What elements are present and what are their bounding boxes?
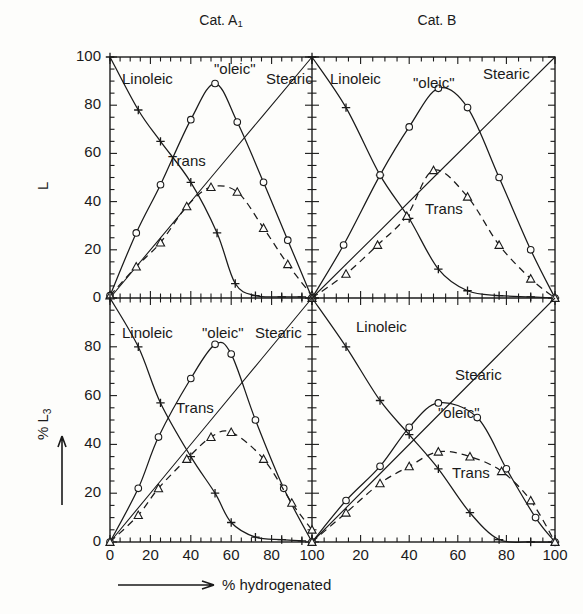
panel-title-cat-b: Cat. B [418, 12, 457, 28]
data-point-circle [377, 172, 384, 179]
x-tick-label-right-100: 100 [542, 546, 567, 563]
data-point-plus [342, 343, 350, 351]
data-point-circle [188, 116, 195, 123]
data-point-circle [234, 119, 241, 126]
data-point-circle [228, 351, 235, 358]
series-oleic [309, 400, 559, 546]
data-point-circle [188, 375, 195, 382]
data-point-circle [343, 497, 350, 504]
y-ticks [548, 298, 555, 542]
y-ticks [305, 298, 312, 542]
data-point-circle [133, 230, 140, 237]
data-point-triangle [405, 462, 413, 469]
curve-label-trans-br: Trans [452, 464, 490, 481]
data-point-triangle [227, 428, 235, 435]
chart-svg [0, 0, 583, 614]
data-point-circle [406, 424, 413, 431]
data-point-triangle [284, 260, 292, 267]
y-tick-label-bottom-0: 0 [93, 532, 101, 549]
y-axis-arrow [58, 436, 66, 505]
panel-top-left [106, 53, 316, 302]
data-point-circle [464, 104, 471, 111]
y-tick-label-top-100: 100 [76, 47, 101, 64]
y-tick-label-top-20: 20 [84, 240, 101, 257]
series-line [312, 88, 555, 298]
data-point-plus [134, 106, 142, 114]
series-line [110, 57, 312, 298]
x-tick-label-left-100: 100 [299, 546, 324, 563]
y-tick-label-bottom-60: 60 [84, 386, 101, 403]
series-line [110, 57, 302, 297]
x-tick-label-left-80: 80 [263, 546, 280, 563]
data-point-plus [342, 103, 350, 111]
data-point-triangle [527, 275, 535, 282]
y-ticks [110, 298, 117, 542]
data-point-triangle [376, 479, 384, 486]
data-point-plus [187, 178, 195, 186]
series-line [312, 170, 555, 298]
curve-label-stearic-br: Stearic [455, 366, 502, 383]
y-tick-label-top-0: 0 [93, 288, 101, 305]
x-ticks [312, 535, 555, 542]
data-point-circle [532, 514, 539, 521]
panel-bottom-right [308, 294, 559, 546]
data-point-triangle [207, 183, 215, 190]
x-tick-label-right-60: 60 [449, 546, 466, 563]
x-axis-label: % hydrogenated [222, 576, 331, 593]
series-trans [308, 166, 559, 301]
data-point-triangle [342, 270, 350, 277]
x-ticks [110, 57, 312, 64]
y-tick-label-top-60: 60 [84, 143, 101, 160]
data-point-circle [135, 485, 142, 492]
curve-label-linoleic-br: Linoleic [356, 318, 407, 335]
data-point-triangle [134, 511, 142, 518]
data-point-circle [377, 463, 384, 470]
series-stearic [110, 57, 312, 298]
data-point-plus [527, 538, 535, 546]
y-tick-label-top-40: 40 [84, 192, 101, 209]
series-line [110, 186, 312, 296]
data-point-circle [406, 124, 413, 131]
y-axis-label-bottom: % L3 [34, 408, 53, 440]
data-point-plus [106, 53, 114, 61]
data-point-plus [156, 399, 164, 407]
x-ticks [312, 298, 555, 305]
curve-label-oleic-tl: "oleic" [214, 60, 256, 77]
y-tick-label-bottom-80: 80 [84, 337, 101, 354]
y-tick-label-top-80: 80 [84, 95, 101, 112]
figure-container: Cat. A1Cat. B020406080100020406080020406… [0, 0, 583, 614]
y-axis-label-top: L [34, 182, 51, 190]
data-point-plus [298, 537, 306, 545]
data-point-plus [211, 489, 219, 497]
data-point-plus [134, 343, 142, 351]
x-tick-label-right-80: 80 [498, 546, 515, 563]
panel-title-cat-a1: Cat. A1 [199, 12, 242, 29]
data-point-circle [496, 174, 503, 181]
data-point-plus [213, 229, 221, 237]
curve-label-stearic-bl: Stearic [255, 324, 302, 341]
data-point-circle [212, 341, 219, 348]
x-tick-label-right-40: 40 [401, 546, 418, 563]
data-point-circle [252, 417, 259, 424]
series-line [312, 451, 555, 542]
x-tick-label-left-0: 0 [106, 546, 114, 563]
x-tick-label-left-60: 60 [223, 546, 240, 563]
x-tick-label-left-40: 40 [182, 546, 199, 563]
data-point-circle [284, 237, 291, 244]
data-point-plus [298, 293, 306, 301]
curve-label-linoleic-tl: Linoleic [122, 70, 173, 87]
series-stearic [312, 298, 555, 542]
y-ticks [110, 57, 117, 298]
data-point-plus [251, 533, 259, 541]
curve-label-linoleic-bl: Linoleic [122, 324, 173, 341]
curve-label-stearic-tl: Stearic [266, 70, 313, 87]
data-point-circle [527, 247, 534, 254]
x-tick-label-left-20: 20 [142, 546, 159, 563]
data-point-circle [260, 179, 267, 186]
y-ticks [305, 57, 312, 298]
data-point-plus [527, 293, 535, 301]
data-point-circle [212, 80, 219, 87]
curve-label-oleic-br: "oleic" [438, 404, 480, 421]
curve-label-stearic-tr: Stearic [483, 65, 530, 82]
x-tick-label-right-20: 20 [352, 546, 369, 563]
